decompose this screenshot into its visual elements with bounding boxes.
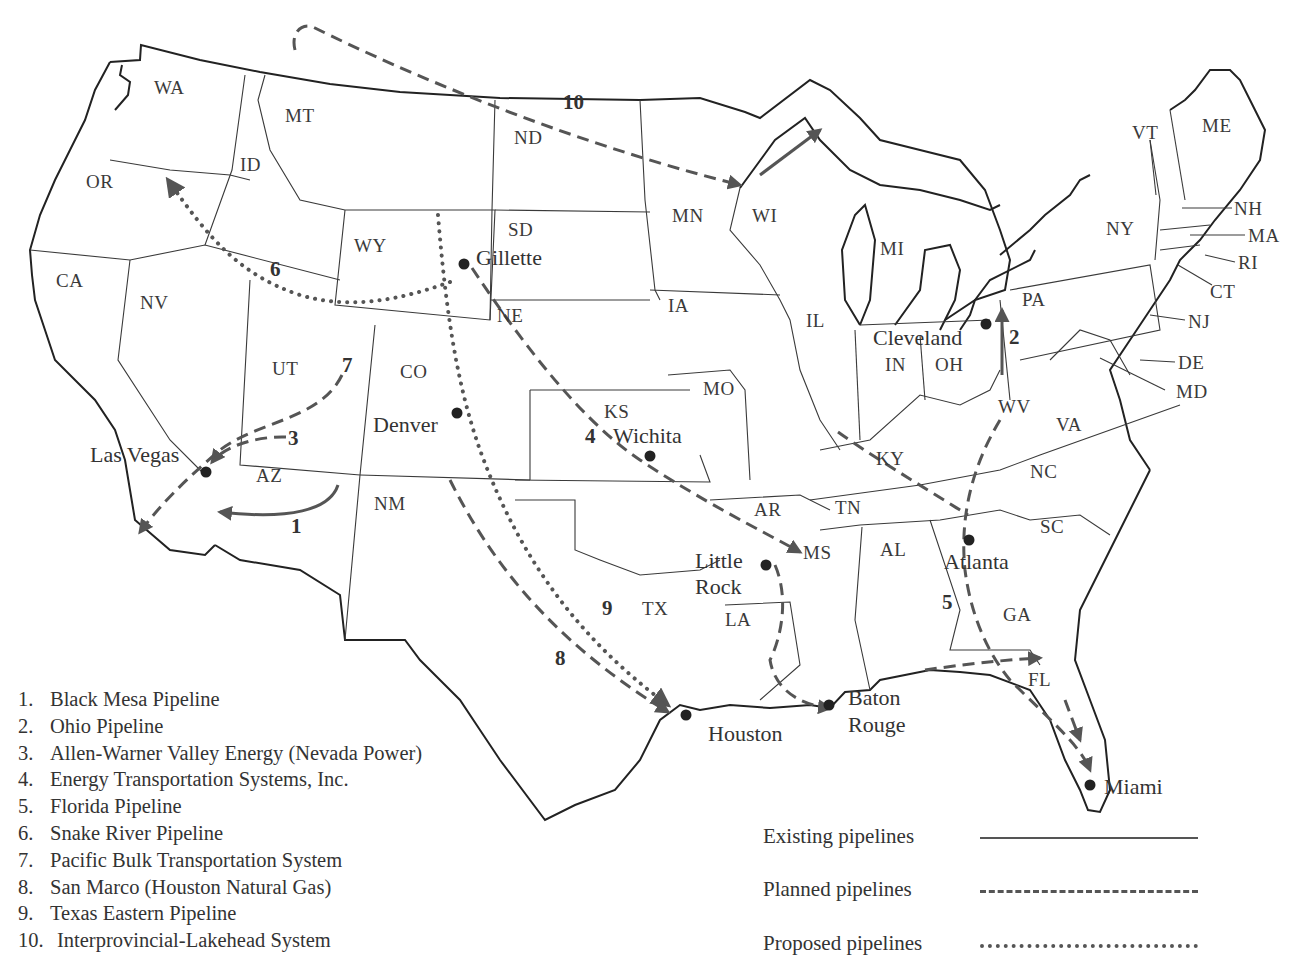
state-label-co: CO bbox=[400, 361, 427, 382]
state-label-wy: WY bbox=[354, 235, 387, 256]
city-label-little-rock-1: Little bbox=[695, 548, 743, 573]
legend-item: 7.Pacific Bulk Transportation System bbox=[18, 847, 422, 874]
legend-item: 1.Black Mesa Pipeline bbox=[18, 686, 422, 713]
pipeline-lake-superior bbox=[760, 130, 820, 175]
city-label-atlanta: Atlanta bbox=[944, 549, 1009, 574]
pipeline-number-5: 5 bbox=[942, 590, 953, 614]
pipeline-florida-east-branch bbox=[1065, 700, 1080, 740]
pipeline-number-6: 6 bbox=[270, 257, 281, 281]
dashed-line-swatch bbox=[980, 890, 1198, 893]
pipeline-9-texas-eastern bbox=[438, 215, 668, 705]
pipeline-10-interprovincial bbox=[294, 26, 740, 185]
pipeline-5-branch-gulf bbox=[925, 658, 1040, 670]
legend-item: 2.Ohio Pipeline bbox=[18, 713, 422, 740]
city-dot-las-vegas bbox=[201, 467, 212, 478]
pipeline-6-snake-river bbox=[168, 180, 450, 302]
pipeline-number-9: 9 bbox=[602, 596, 613, 620]
city-label-houston: Houston bbox=[708, 721, 783, 746]
key-planned-label: Planned pipelines bbox=[763, 877, 912, 902]
city-label-denver: Denver bbox=[373, 412, 438, 437]
pipeline-number-7: 7 bbox=[342, 353, 353, 377]
state-label-nj: NJ bbox=[1188, 311, 1210, 332]
state-label-nm: NM bbox=[374, 493, 406, 514]
state-label-az: AZ bbox=[256, 465, 282, 486]
state-label-vt: VT bbox=[1132, 122, 1158, 143]
state-label-in: IN bbox=[885, 354, 906, 375]
state-label-id: ID bbox=[240, 154, 261, 175]
pipeline-number-3: 3 bbox=[288, 426, 299, 450]
state-label-pa: PA bbox=[1022, 289, 1046, 310]
state-label-va: VA bbox=[1056, 414, 1082, 435]
city-label-little-rock-2: Rock bbox=[695, 574, 741, 599]
state-label-fl: FL bbox=[1028, 669, 1051, 690]
city-label-miami: Miami bbox=[1104, 774, 1163, 799]
legend-item: 10.Interprovincial-Lakehead System bbox=[18, 927, 422, 954]
legend-item: 9.Texas Eastern Pipeline bbox=[18, 900, 422, 927]
city-dot-denver bbox=[452, 408, 463, 419]
city-label-wichita: Wichita bbox=[613, 423, 682, 448]
pipeline-numbers: 1 2 3 4 5 6 7 8 9 10 bbox=[270, 90, 1020, 670]
state-labels: WA OR CA ID NV MT WY UT AZ CO NM ND SD N… bbox=[56, 77, 1280, 690]
key-existing-label: Existing pipelines bbox=[763, 824, 914, 849]
city-dot-houston bbox=[681, 710, 692, 721]
state-borders bbox=[30, 75, 1210, 700]
state-label-ny: NY bbox=[1106, 218, 1134, 239]
city-dot-baton-rouge bbox=[824, 700, 835, 711]
state-label-wi: WI bbox=[752, 205, 777, 226]
city-label-baton-rouge-2: Rouge bbox=[848, 712, 905, 737]
city-dot-little-rock bbox=[761, 560, 772, 571]
pipeline-number-2: 2 bbox=[1009, 325, 1020, 349]
city-dot-gillette bbox=[459, 259, 470, 270]
state-label-nh: NH bbox=[1234, 198, 1262, 219]
state-label-ky: KY bbox=[876, 448, 904, 469]
state-label-sc: SC bbox=[1040, 516, 1064, 537]
city-label-las-vegas: Las Vegas bbox=[90, 442, 179, 467]
solid-line-swatch bbox=[980, 837, 1198, 839]
legend-item: 3.Allen-Warner Valley Energy (Nevada Pow… bbox=[18, 740, 422, 767]
pipeline-1-black-mesa bbox=[220, 485, 338, 515]
state-label-ri: RI bbox=[1238, 252, 1258, 273]
state-label-de: DE bbox=[1178, 352, 1204, 373]
dotted-line-swatch bbox=[980, 944, 1198, 948]
pipeline-number-4: 4 bbox=[585, 424, 596, 448]
legend-item: 5.Florida Pipeline bbox=[18, 793, 422, 820]
city-dot-atlanta bbox=[964, 535, 975, 546]
state-label-nd: ND bbox=[514, 127, 542, 148]
state-label-ma: MA bbox=[1248, 225, 1280, 246]
state-label-nv: NV bbox=[140, 292, 168, 313]
pipeline-number-1: 1 bbox=[291, 514, 302, 538]
state-label-or: OR bbox=[86, 171, 113, 192]
state-label-md: MD bbox=[1176, 381, 1208, 402]
state-label-ca: CA bbox=[56, 270, 83, 291]
city-dot-cleveland bbox=[981, 319, 992, 330]
state-label-ks: KS bbox=[604, 401, 629, 422]
legend-item: 6.Snake River Pipeline bbox=[18, 820, 422, 847]
pipelines bbox=[140, 26, 1090, 770]
state-label-oh: OH bbox=[935, 354, 963, 375]
state-label-wv: WV bbox=[998, 396, 1031, 417]
pipeline-legend-list: 1.Black Mesa Pipeline 2.Ohio Pipeline 3.… bbox=[18, 686, 422, 954]
pipeline-number-8: 8 bbox=[555, 646, 566, 670]
city-dot-wichita bbox=[645, 451, 656, 462]
state-label-mn: MN bbox=[672, 205, 704, 226]
city-dot-miami bbox=[1085, 780, 1096, 791]
city-label-gillette: Gillette bbox=[476, 245, 542, 270]
legend-item: 4.Energy Transportation Systems, Inc. bbox=[18, 766, 422, 793]
state-label-tx: TX bbox=[642, 598, 668, 619]
state-label-ut: UT bbox=[272, 358, 298, 379]
key-proposed-label: Proposed pipelines bbox=[763, 931, 922, 956]
state-label-wa: WA bbox=[154, 77, 185, 98]
state-label-il: IL bbox=[806, 310, 825, 331]
legend-item: 8.San Marco (Houston Natural Gas) bbox=[18, 874, 422, 901]
pipeline-4-branch-baton-rouge bbox=[770, 565, 830, 708]
state-label-mi: MI bbox=[880, 238, 904, 259]
state-label-ne: NE bbox=[497, 305, 523, 326]
state-label-ct: CT bbox=[1210, 281, 1235, 302]
state-label-ga: GA bbox=[1003, 604, 1031, 625]
state-label-me: ME bbox=[1202, 115, 1232, 136]
state-label-ms: MS bbox=[803, 542, 831, 563]
state-label-sd: SD bbox=[508, 219, 533, 240]
state-label-la: LA bbox=[725, 609, 751, 630]
state-label-tn: TN bbox=[835, 497, 861, 518]
pipeline-number-10: 10 bbox=[563, 90, 584, 114]
